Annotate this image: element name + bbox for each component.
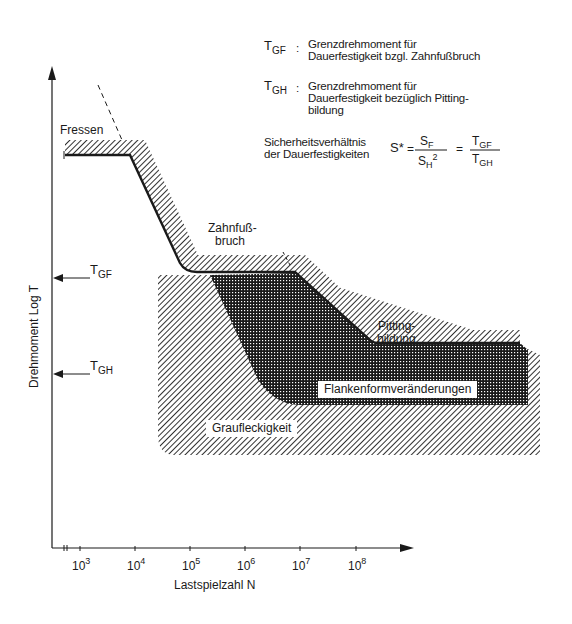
legend-tgh-line1: Grenzdrehmoment für <box>308 80 417 92</box>
x-axis-arrow-icon <box>400 544 414 552</box>
x-tick-label: 105 <box>182 556 200 573</box>
legend-tgh-separator: : <box>296 82 299 94</box>
ratio-label-line2: der Dauerfestigkeiten <box>264 148 369 160</box>
label-pitting-line2: bildung <box>377 333 416 346</box>
tgf-arrow-icon <box>53 274 63 282</box>
legend-tgh-line2: Dauerfestigkeit bezüglich Pitting- <box>308 92 469 104</box>
label-graufleckigkeit: Graufleckigkeit <box>206 420 297 437</box>
label-flankenform: Flankenformveränderungen <box>318 381 477 398</box>
y-axis-arrow-icon <box>48 66 56 80</box>
ratio-eq2: = <box>456 142 463 156</box>
ratio-lhs: S* <box>390 140 404 155</box>
legend-tgh-line3: bildung <box>308 104 344 116</box>
ratio-num1: SF <box>420 134 434 150</box>
ratio-den1: SH2 <box>418 152 438 170</box>
legend-tgf-line2: Dauerfestigkeit bzgl. Zahnfußbruch <box>308 50 480 62</box>
ratio-num2: TGF <box>472 134 492 150</box>
tgh-arrow-icon <box>53 370 63 378</box>
label-fressen: Fressen <box>60 124 103 137</box>
legend-tgh-symbol: TGH <box>264 78 287 96</box>
x-tick-label: 108 <box>348 556 366 573</box>
y-axis-title: Drehmoment Log T <box>27 285 41 388</box>
legend-tgf-line1: Grenzdrehmoment für <box>308 38 417 50</box>
x-tick-label: 104 <box>127 556 145 573</box>
y-marker-tgh: TGH <box>90 358 113 376</box>
ratio-eq1: = <box>407 142 414 156</box>
x-tick-label: 106 <box>237 556 255 573</box>
ratio-label-line1: Sicherheitsverhältnis <box>264 136 366 148</box>
label-zahnfuss-line2: bruch <box>215 235 245 248</box>
x-tick-label: 103 <box>72 556 90 573</box>
x-tick-label: 107 <box>292 556 310 573</box>
legend-tgf-symbol: TGF <box>264 38 286 56</box>
legend-tgf-separator: : <box>296 42 299 54</box>
x-axis-title: Lastspielzahl N <box>174 578 255 592</box>
ratio-den2: TGH <box>472 152 493 168</box>
y-marker-tgf: TGF <box>90 262 112 280</box>
